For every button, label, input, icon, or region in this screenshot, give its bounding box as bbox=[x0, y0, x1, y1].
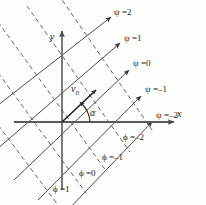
psi-label-1: ψ =1 bbox=[124, 33, 141, 43]
phi-label-m1: ϕ =–1 bbox=[102, 152, 123, 162]
alpha-label: α bbox=[90, 107, 96, 118]
characteristic-net-figure: ψ =2 ψ =1 ψ =0 ψ =–1 ψ =–2 ϕ =–2 ϕ =–1 ϕ… bbox=[0, 0, 206, 205]
figure-background bbox=[0, 0, 206, 205]
x-axis-label: x bbox=[176, 108, 182, 119]
phi-label-0: ϕ =0 bbox=[79, 168, 96, 178]
phi-label-m2: ϕ =–2 bbox=[123, 132, 144, 142]
y-axis-label: y bbox=[49, 31, 55, 42]
psi-label-m1: ψ =–1 bbox=[145, 84, 167, 94]
phi-label-1: ϕ =1 bbox=[53, 184, 70, 194]
psi-label-2: ψ =2 bbox=[114, 7, 131, 17]
psi-label-0: ψ =0 bbox=[133, 58, 151, 68]
psi-label-m2: ψ =–2 bbox=[156, 110, 178, 120]
